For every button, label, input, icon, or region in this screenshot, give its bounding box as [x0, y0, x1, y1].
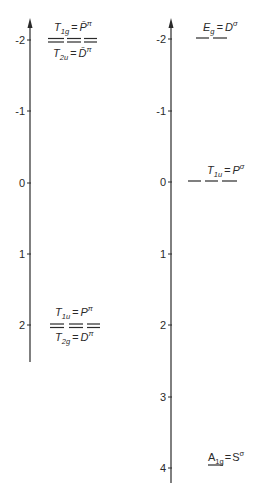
left-axis-ticks: -2 -1 0 1 2 — [15, 34, 25, 331]
tick-label: 0 — [19, 177, 25, 189]
right-axis — [168, 18, 174, 483]
level-label-a1g: A1g=Sσ — [208, 449, 244, 466]
tick-label: -2 — [15, 34, 25, 46]
tick-label: 1 — [160, 248, 166, 260]
tick-label: -1 — [15, 105, 25, 117]
level-label-t1u-sigma: T1u=Pσ — [207, 162, 245, 179]
level-left-plus2 — [50, 324, 100, 328]
arrow-up-icon — [169, 18, 174, 28]
level-label-t2u: T2u=D̄π — [53, 45, 92, 62]
right-axis-ticks: -2 -1 0 1 2 3 4 — [156, 33, 166, 474]
tick-label: 2 — [160, 319, 166, 331]
left-axis — [27, 18, 33, 362]
tick-label: -1 — [156, 105, 166, 117]
level-label-t1g: T1g=P̄π — [54, 19, 93, 36]
energy-level-diagram: -2 -1 0 1 2 T1g=P̄π T2u=D̄π T1u=Pπ T2g=D… — [0, 0, 254, 483]
tick-label: -2 — [156, 33, 166, 45]
level-label-t1u: T1u=Pπ — [55, 304, 94, 321]
level-left-minus2 — [48, 39, 97, 43]
arrow-up-icon — [28, 18, 33, 28]
tick-label: 0 — [160, 176, 166, 188]
tick-label: 2 — [19, 319, 25, 331]
tick-label: 3 — [160, 391, 166, 403]
level-label-eg: Eg=Dσ — [203, 19, 238, 36]
tick-label: 4 — [160, 462, 166, 474]
level-label-t2g: T2g=Dπ — [55, 329, 94, 346]
tick-label: 1 — [19, 248, 25, 260]
